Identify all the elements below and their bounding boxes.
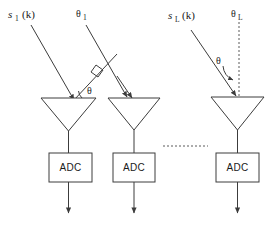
adc-label-channel-1: ADC <box>59 162 81 173</box>
adc-label-channel-2: ADC <box>123 162 145 173</box>
antenna-triangle-channel-1 <box>41 98 96 131</box>
antenna-triangle-channel-L <box>211 97 264 130</box>
label-angle-L-base: θ <box>231 8 236 19</box>
antenna-triangle-channel-2 <box>108 98 160 130</box>
label-signal-1-arg: (k) <box>22 8 35 21</box>
label-signal-1-subscript: 1 <box>15 14 19 23</box>
label-angle-left: θ <box>87 85 92 96</box>
label-angle-1-base: θ <box>76 8 81 19</box>
label-angle-L-subscript: L <box>238 13 243 22</box>
signal-arrow-channel-1 <box>31 25 74 100</box>
wavefront-line <box>74 54 117 100</box>
signal-arrow-channel-2 <box>117 76 132 98</box>
angle-reference-arrow-channel-1 <box>86 25 127 97</box>
adc-label-channel-L: ADC <box>226 162 248 173</box>
label-signal-L-base: s <box>168 9 172 21</box>
label-angle-right: θ <box>216 55 221 66</box>
angle-arc-right <box>223 66 233 80</box>
signal-arrow-channel-L <box>191 30 236 96</box>
label-signal-L-subscript: L <box>175 15 180 24</box>
label-signal-1-base: s <box>8 8 12 20</box>
label-signal-L-arg: (k) <box>182 9 195 22</box>
block-diagram: s 1 (k) θ 1 θ s L (k) θ L θ ADC ADC ADC <box>0 0 270 225</box>
figure-canvas: s 1 (k) θ 1 θ s L (k) θ L θ ADC ADC ADC <box>0 0 270 225</box>
label-angle-1-subscript: 1 <box>83 13 87 22</box>
